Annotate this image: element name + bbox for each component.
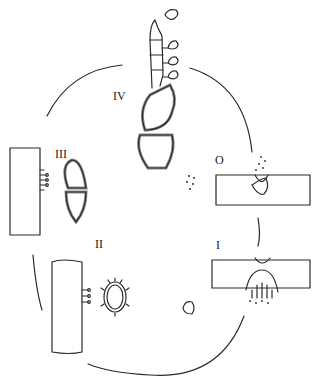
life-cycle-diagram [0,0,327,387]
stage-label-i: I [216,239,220,251]
stage-iii-teliospore [65,160,86,222]
stage-ii-urediniospore [101,278,129,316]
cycle-arc-top-left [47,65,122,116]
stage-ii-uredinium [52,260,90,354]
stage-label-o: O [215,154,224,166]
cycle-arc-right [258,218,260,246]
stage-iii-telium [10,148,48,235]
stage-label-iv: IV [113,90,126,102]
stage-i-aecium [212,258,310,298]
cycle-arc-left [33,255,42,310]
stage-iv-germinating-teliospore [139,10,178,168]
cycle-arc-lower-right [88,316,244,375]
germinating-spore [183,302,194,314]
cycle-arc-top-right [190,68,252,152]
stage-label-ii: II [95,238,103,250]
stage-o-spermogonium [216,175,310,205]
stage-label-iii: III [55,148,67,160]
